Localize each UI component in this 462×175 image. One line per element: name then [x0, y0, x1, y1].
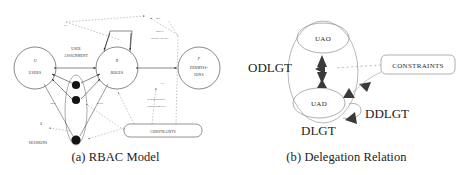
- edge-user-assignment: USER ASSIGNMENT: [57, 47, 96, 68]
- constraint-links: [66, 16, 178, 139]
- edge-label-role-hierarchy-line1: ROLE: [156, 29, 164, 33]
- edge-label-role-hierarchy-line2: HIERARCHY: [151, 36, 170, 40]
- node-constraints-delegation: CONSTRAINTS: [335, 55, 455, 92]
- node-permissions: P PERMISS- IONS: [178, 47, 220, 89]
- node-uao-label: UAO: [315, 35, 331, 43]
- edge-label-pa: PA: [161, 81, 165, 85]
- panel-rbac-model: U USERS R ROLES P PERMISS- IONS: [0, 0, 231, 175]
- rbac-model-diagram: U USERS R ROLES P PERMISS- IONS: [0, 0, 231, 150]
- node-roles: R ROLES: [96, 47, 138, 89]
- node-uad-label: UAD: [311, 100, 327, 108]
- edge-label-role-sessions: roles: [97, 101, 104, 105]
- node-roles-label: ROLES: [111, 71, 124, 75]
- node-permissions-label-line2: IONS: [194, 73, 203, 77]
- edge-label-user-assignment-line1: USER: [71, 47, 81, 51]
- edge-role-hierarchy: ROLE HIERARCHY: [104, 29, 170, 52]
- caption-rbac-model: (a) RBAC Model: [0, 150, 231, 165]
- edge-label-user-sessions: user: [50, 101, 55, 105]
- node-sessions-label: SESSIONS: [29, 141, 48, 145]
- caption-delegation-relation: (b) Delegation Relation: [231, 150, 462, 165]
- edge-label-rh: RH: [156, 16, 160, 20]
- node-uao: UAO: [297, 23, 349, 53]
- edge-label-ua: UA: [64, 23, 69, 27]
- odlgt-arrows: [315, 55, 327, 88]
- edge-label-permission-assignment-line2: ASSIGNMENT: [146, 104, 166, 108]
- node-roles-symbol: R: [115, 59, 119, 63]
- node-sessions-symbol: S: [40, 122, 42, 126]
- node-users-symbol: U: [34, 59, 37, 63]
- edge-label-permission-assignment-line1: PERMISSION: [147, 97, 166, 101]
- figure-root: U USERS R ROLES P PERMISS- IONS: [0, 0, 462, 175]
- panel-delegation-relation: UAO UAD: [231, 0, 462, 175]
- node-permissions-label-line1: PERMISS-: [190, 66, 209, 70]
- node-constraints-rbac: CONSTRAINTS: [124, 124, 202, 137]
- sessions-spine: [65, 75, 87, 145]
- delegation-relation-diagram: UAO UAD: [231, 0, 462, 150]
- node-constraints-delegation-label: CONSTRAINTS: [392, 62, 444, 70]
- node-uad: UAD: [293, 88, 345, 118]
- node-permissions-symbol: P: [197, 57, 201, 61]
- node-users-label: USERS: [29, 71, 41, 75]
- group-label-odlgt: ODLGT: [248, 60, 292, 75]
- group-label-ddlgt: DDLGT: [365, 106, 409, 121]
- edge-permission-assignment: PERMISSION ASSIGNMENT PA: [139, 68, 177, 108]
- node-constraints-rbac-label: CONSTRAINTS: [150, 130, 176, 134]
- edge-label-user-assignment-line2: ASSIGNMENT: [64, 54, 89, 58]
- node-sessions: S SESSIONS: [29, 122, 70, 145]
- node-users: U USERS: [14, 47, 56, 89]
- group-label-dlgt: DLGT: [301, 123, 336, 138]
